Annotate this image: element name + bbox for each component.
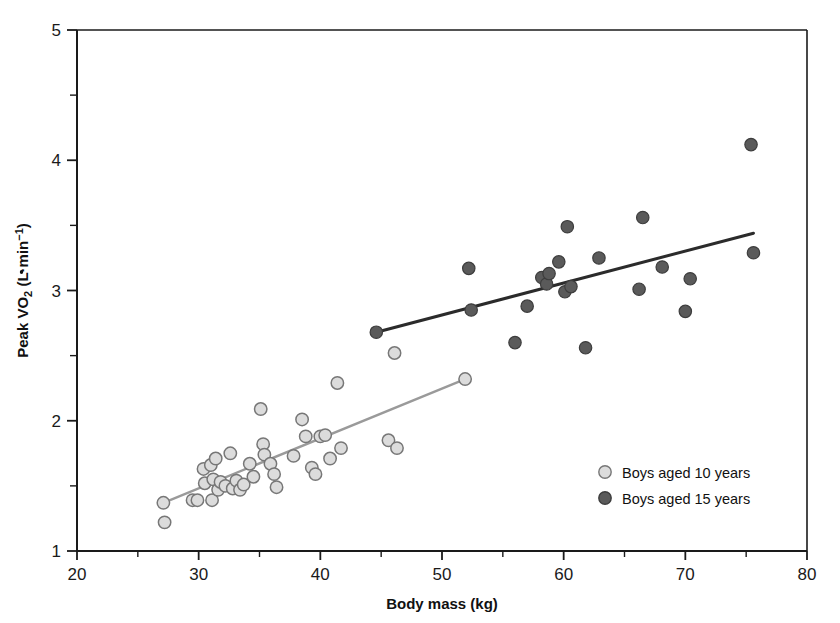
data-point <box>319 429 331 441</box>
legend-marker-boys-15 <box>599 492 611 504</box>
x-tick-label: 20 <box>68 565 87 584</box>
data-point <box>463 262 475 274</box>
data-point <box>270 481 282 493</box>
data-point <box>745 138 757 150</box>
data-point <box>370 326 382 338</box>
data-point <box>224 447 236 459</box>
v-dot-accent <box>20 270 23 274</box>
y-tick-label: 2 <box>52 412 61 431</box>
data-point <box>509 336 521 348</box>
data-point <box>191 494 203 506</box>
x-axis-title: Body mass (kg) <box>386 595 498 612</box>
data-point <box>465 304 477 316</box>
y-tick-label: 5 <box>52 21 61 40</box>
data-point <box>561 220 573 232</box>
data-point <box>543 267 555 279</box>
scatter-plot-figure: 20304050607080 12345 Body mass (kg) Peak… <box>0 0 840 623</box>
data-point <box>296 413 308 425</box>
data-point <box>158 516 170 528</box>
data-point <box>309 468 321 480</box>
data-point <box>459 373 471 385</box>
data-point <box>210 452 222 464</box>
x-tick-label: 70 <box>676 565 695 584</box>
y-axis-title: Peak VO2 (L·min−1) <box>13 223 34 358</box>
legend-label-boys-10: Boys aged 10 years <box>622 465 750 481</box>
y-tick-label: 4 <box>52 151 61 170</box>
y-tick-label: 1 <box>52 542 61 561</box>
x-tick-label: 80 <box>798 565 817 584</box>
data-point <box>335 442 347 454</box>
data-point <box>255 403 267 415</box>
figure-background <box>0 0 840 623</box>
data-point <box>268 468 280 480</box>
data-point <box>656 261 668 273</box>
data-point <box>331 377 343 389</box>
data-point <box>553 256 565 268</box>
data-point <box>244 458 256 470</box>
data-point <box>300 430 312 442</box>
data-point <box>157 497 169 509</box>
y-tick-label: 3 <box>52 282 61 301</box>
data-point <box>391 442 403 454</box>
data-point <box>388 347 400 359</box>
data-point <box>521 300 533 312</box>
legend-label-boys-15: Boys aged 15 years <box>622 491 750 507</box>
data-point <box>565 280 577 292</box>
x-tick-label: 50 <box>433 565 452 584</box>
data-point <box>593 252 605 264</box>
data-point <box>679 305 691 317</box>
x-tick-label: 40 <box>311 565 330 584</box>
data-point <box>324 452 336 464</box>
data-point <box>747 247 759 259</box>
data-point <box>579 342 591 354</box>
data-point <box>247 471 259 483</box>
data-point <box>637 211 649 223</box>
legend-marker-boys-10 <box>599 466 611 478</box>
x-tick-label: 30 <box>189 565 208 584</box>
data-point <box>287 450 299 462</box>
x-tick-label: 60 <box>554 565 573 584</box>
data-point <box>684 273 696 285</box>
data-point <box>633 283 645 295</box>
